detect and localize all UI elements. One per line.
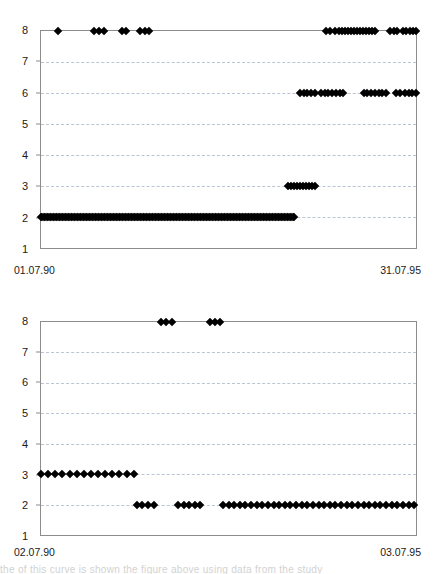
data-point: [68, 213, 76, 221]
data-point: [230, 213, 238, 221]
data-point: [174, 500, 182, 508]
data-point: [206, 318, 214, 326]
data-point: [402, 27, 410, 35]
data-point: [356, 27, 364, 35]
y-tick-label: 6: [22, 377, 28, 388]
data-point: [337, 27, 345, 35]
data-point: [72, 470, 80, 478]
data-point: [37, 470, 45, 478]
data-point: [282, 213, 290, 221]
data-point: [284, 182, 292, 190]
data-point: [86, 213, 94, 221]
data-point: [181, 213, 189, 221]
data-point: [51, 470, 59, 478]
points-layer-bottom: [41, 322, 416, 535]
data-point: [332, 89, 340, 97]
data-point: [167, 318, 175, 326]
data-point: [272, 213, 280, 221]
data-point: [386, 27, 394, 35]
data-point: [122, 470, 130, 478]
data-point: [206, 213, 214, 221]
data-point: [145, 27, 153, 35]
data-point: [344, 27, 352, 35]
data-point: [89, 27, 97, 35]
data-point: [231, 213, 239, 221]
data-point: [194, 213, 202, 221]
data-point: [94, 213, 102, 221]
data-point: [328, 89, 336, 97]
data-point: [104, 213, 112, 221]
data-point: [350, 27, 358, 35]
data-point: [207, 213, 215, 221]
data-point: [71, 213, 79, 221]
data-point: [64, 213, 72, 221]
cropped-caption-text: the of this curve is shown the figure ab…: [0, 564, 446, 574]
data-point: [58, 470, 66, 478]
data-point: [179, 213, 187, 221]
data-point: [73, 213, 81, 221]
data-point: [148, 213, 156, 221]
data-point: [326, 27, 334, 35]
data-point: [40, 213, 48, 221]
data-point: [303, 500, 311, 508]
data-point: [209, 213, 217, 221]
data-point: [320, 89, 328, 97]
chart-top: 8 7 6 5 4 3 2 1 01.07.90 31.07.95: [0, 0, 446, 290]
data-point: [254, 213, 262, 221]
data-point: [67, 213, 75, 221]
data-point: [149, 500, 157, 508]
gridline: [41, 352, 416, 353]
data-point: [243, 213, 251, 221]
data-point: [101, 213, 109, 221]
data-point: [378, 89, 386, 97]
data-point: [371, 27, 379, 35]
data-point: [197, 213, 205, 221]
data-point: [53, 213, 61, 221]
data-point: [211, 318, 219, 326]
data-point: [266, 213, 274, 221]
data-point: [133, 213, 141, 221]
data-point: [269, 213, 277, 221]
data-point: [107, 213, 115, 221]
data-point: [125, 213, 133, 221]
data-point: [157, 213, 165, 221]
data-point: [62, 213, 70, 221]
data-point: [296, 182, 304, 190]
data-point: [154, 213, 162, 221]
data-point: [389, 27, 397, 35]
data-point: [288, 213, 296, 221]
gridline: [41, 413, 416, 414]
data-point: [160, 213, 168, 221]
y-tick-label: 4: [22, 150, 28, 161]
data-point: [307, 182, 315, 190]
data-point: [115, 213, 123, 221]
data-point: [218, 213, 226, 221]
gridline: [41, 444, 416, 445]
data-point: [143, 213, 151, 221]
data-point: [52, 213, 60, 221]
data-point: [382, 500, 390, 508]
data-point: [276, 213, 284, 221]
data-point: [246, 213, 254, 221]
data-point: [290, 213, 298, 221]
data-point: [151, 213, 159, 221]
data-point: [341, 27, 349, 35]
data-point: [286, 500, 294, 508]
data-point: [166, 213, 174, 221]
data-point: [140, 27, 148, 35]
data-point: [228, 213, 236, 221]
data-point: [54, 27, 62, 35]
data-point: [404, 89, 412, 97]
data-point: [348, 500, 356, 508]
data-point: [109, 213, 117, 221]
data-point: [248, 213, 256, 221]
data-point: [128, 213, 136, 221]
data-point: [100, 213, 108, 221]
data-point: [376, 500, 384, 508]
data-point: [337, 500, 345, 508]
data-point: [393, 27, 401, 35]
data-point: [221, 213, 229, 221]
data-point: [164, 213, 172, 221]
data-point: [187, 213, 195, 221]
data-point: [278, 213, 286, 221]
